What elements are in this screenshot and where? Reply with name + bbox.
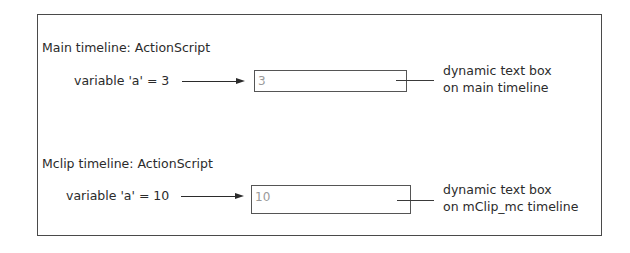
main-callout-line1: dynamic text box (443, 62, 552, 79)
main-callout-leader-line (396, 80, 434, 81)
main-timeline-heading: Main timeline: ActionScript (42, 41, 210, 55)
mclip-callout-line2: on mClip_mc timeline (443, 198, 578, 215)
mclip-callout-leader-line (397, 200, 434, 201)
mclip-callout: dynamic text box on mClip_mc timeline (443, 181, 578, 215)
mclip-dynamic-text-box: 10 (251, 185, 411, 214)
mclip-text-box-value: 10 (255, 190, 270, 204)
main-callout-line2: on main timeline (443, 79, 552, 96)
main-text-box-value: 3 (258, 74, 266, 88)
mclip-variable-label: variable 'a' = 10 (66, 189, 169, 203)
main-callout: dynamic text box on main timeline (443, 62, 552, 96)
main-variable-label: variable 'a' = 3 (74, 74, 169, 88)
main-dynamic-text-box: 3 (254, 70, 407, 92)
mclip-callout-line1: dynamic text box (443, 181, 578, 198)
mclip-timeline-heading: Mclip timeline: ActionScript (42, 157, 213, 171)
